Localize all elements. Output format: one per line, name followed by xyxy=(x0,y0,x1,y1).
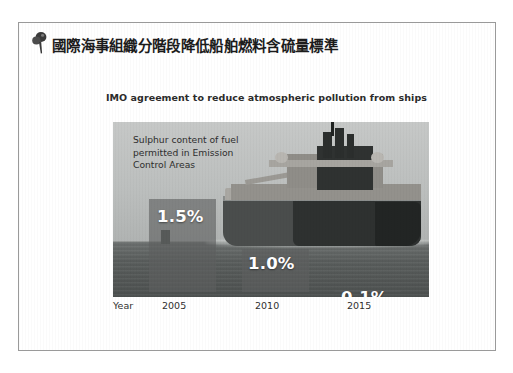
ship-radar-left xyxy=(275,152,288,163)
ship-stern xyxy=(375,202,421,246)
pushpin-icon xyxy=(30,31,49,55)
bar-value-label-2010: 1.0% xyxy=(248,254,295,273)
ship-mast xyxy=(331,122,334,136)
x-axis-label: Year xyxy=(113,300,133,311)
slide-frame: 國際海事組織分階段降低船舶燃料含硫量標準 IMO agreement to re… xyxy=(18,22,496,351)
slide-title-row: 國際海事組織分階段降低船舶燃料含硫量標準 xyxy=(19,27,495,61)
bar-value-label-2015: 0.1% xyxy=(341,288,388,297)
x-tick-2005: 2005 xyxy=(162,300,186,311)
page-title: 國際海事組織分階段降低船舶燃料含硫量標準 xyxy=(52,34,338,55)
chart-title: IMO agreement to reduce atmospheric poll… xyxy=(96,92,437,103)
ship-radar-right xyxy=(371,152,384,163)
ship-funnel-b xyxy=(335,128,344,158)
chart-x-axis: Year 2005 2010 2015 xyxy=(113,300,429,318)
chart-annotation: Sulphur content of fuel permitted in Emi… xyxy=(133,134,268,172)
ship-funnel-c xyxy=(347,134,354,158)
chart-plot-area: Sulphur content of fuel permitted in Emi… xyxy=(113,122,429,297)
x-tick-2015: 2015 xyxy=(347,300,371,311)
chart-card: IMO agreement to reduce atmospheric poll… xyxy=(96,72,437,340)
bar-value-label-2005: 1.5% xyxy=(157,207,204,226)
x-tick-2010: 2010 xyxy=(255,300,279,311)
